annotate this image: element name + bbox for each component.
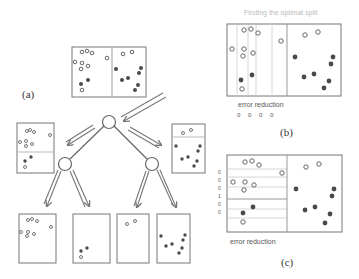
right-child-node bbox=[146, 158, 159, 171]
root-data-box bbox=[72, 47, 146, 97]
root-node bbox=[103, 116, 116, 129]
leaf-box-1 bbox=[19, 214, 56, 263]
left-child-data-box bbox=[17, 123, 54, 173]
decision-tree-diagram bbox=[0, 0, 359, 279]
label-c: (c) bbox=[281, 256, 293, 268]
panel-c-row-values: 0 0 0 1 0 0 bbox=[218, 168, 221, 216]
panel-c-error-label: error reduction bbox=[230, 238, 276, 245]
label-a: (a) bbox=[22, 88, 34, 100]
left-child-node bbox=[59, 158, 72, 171]
panel-b-title: Finding the optimal split bbox=[244, 9, 318, 16]
leaf-box-2 bbox=[73, 214, 110, 263]
panel-c-split-search bbox=[227, 155, 342, 232]
right-child-data-box bbox=[172, 124, 205, 173]
panel-b-error-label: error reduction bbox=[238, 101, 284, 108]
panel-b-error-values: 0 0 0 0 bbox=[237, 112, 276, 118]
leaf-box-3 bbox=[117, 214, 149, 263]
label-b: (b) bbox=[280, 126, 293, 138]
panel-b-split-search bbox=[227, 24, 341, 96]
leaf-box-4 bbox=[157, 214, 190, 263]
